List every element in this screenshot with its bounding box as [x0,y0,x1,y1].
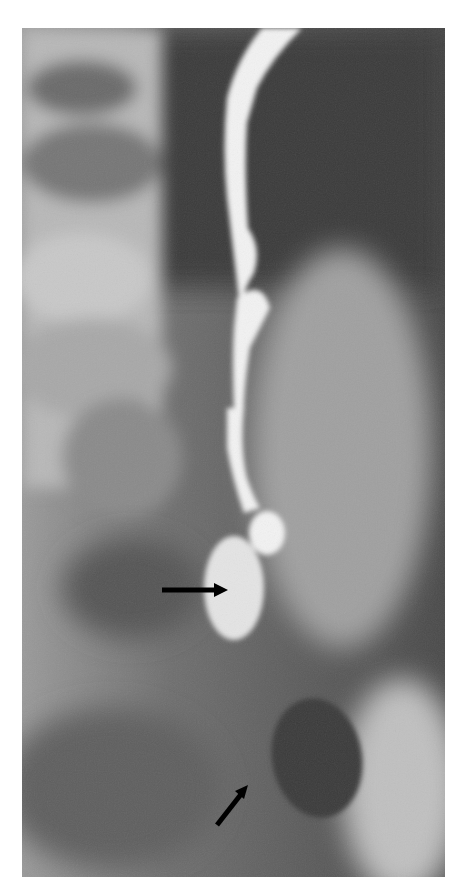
radiograph-image [22,28,445,877]
